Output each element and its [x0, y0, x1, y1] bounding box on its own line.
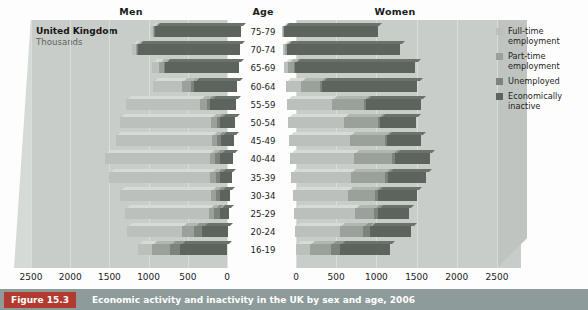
bar-segment-part_time: [209, 208, 214, 219]
axis-tick-women-1500: 1500: [397, 272, 437, 282]
age-label: 20-24: [240, 227, 286, 237]
age-label: 60-64: [240, 82, 286, 92]
bar-segment-inactive: [378, 208, 409, 219]
bar-segment-inactive: [366, 99, 421, 110]
bar-segment-part_time: [182, 81, 191, 92]
legend-swatch-icon: [496, 53, 503, 60]
legend-swatch-icon: [496, 28, 503, 35]
bar-segment-part_time: [200, 99, 207, 110]
figure-caption-text: Economic activity and inactivity in the …: [92, 295, 415, 305]
bar-segment-inactive: [165, 62, 239, 73]
bar-segment-full_time: [288, 117, 344, 128]
bar-segment-unemployed: [215, 153, 220, 164]
legend-label: Economically inactive: [508, 91, 584, 111]
bar-segment-unemployed: [217, 135, 221, 146]
bar-segment-part_time: [210, 153, 215, 164]
legend-label: Part-time employment: [508, 51, 584, 71]
axis-tick-men-2500: 2500: [11, 272, 51, 282]
axis-tick-women-1000: 1000: [356, 272, 396, 282]
units-label: Thousands: [36, 37, 118, 48]
age-label: 45-49: [240, 136, 286, 146]
country-label: United Kingdom: [36, 26, 118, 37]
bar-segment-part_time: [351, 172, 385, 183]
age-label: 55-59: [240, 100, 286, 110]
bar-segment-part_time: [153, 26, 154, 37]
bar-segment-unemployed: [164, 62, 165, 73]
bar-segment-inactive: [220, 208, 229, 219]
bar-segment-inactive: [221, 135, 234, 146]
age-label: 30-34: [240, 191, 286, 201]
bar-segment-full_time: [293, 190, 348, 201]
legend-label: Full-time employment: [508, 26, 584, 46]
bar-segment-unemployed: [216, 172, 221, 183]
axis-tick-men-1000: 1000: [129, 272, 169, 282]
country-units-label: United Kingdom Thousands: [36, 26, 118, 48]
bar-segment-part_time: [210, 172, 215, 183]
bar-segment-inactive: [388, 172, 427, 183]
gridline-men-1500: [109, 20, 110, 268]
bar-segment-full_time: [290, 153, 354, 164]
axis-tick-women-0: 0: [276, 272, 316, 282]
bar-segment-part_time: [159, 62, 164, 73]
bar-segment-part_time: [332, 99, 364, 110]
column-header-women: Women: [350, 6, 440, 17]
legend-label: Unemployed: [508, 76, 560, 86]
bar-segment-full_time: [287, 99, 332, 110]
bar-segment-unemployed: [191, 81, 193, 92]
bar-segment-part_time: [350, 135, 385, 146]
age-label: 35-39: [240, 173, 286, 183]
bar-segment-part_time: [355, 208, 374, 219]
bar-segment-full_time: [296, 244, 310, 255]
bar-segment-full_time: [151, 26, 153, 37]
bar-segment-part_time: [182, 226, 194, 237]
axis-tick-women-2000: 2000: [437, 272, 477, 282]
bar-segment-full_time: [120, 117, 211, 128]
bar-segment-unemployed: [217, 117, 221, 128]
bar-segment-inactive: [220, 117, 235, 128]
axis-tick-women-2500: 2500: [477, 272, 517, 282]
bar-segment-part_time: [354, 153, 392, 164]
bar-segment-inactive: [380, 117, 416, 128]
bar-segment-full_time: [105, 153, 209, 164]
legend-swatch-icon: [496, 93, 503, 100]
bar-segment-full_time: [116, 135, 212, 146]
age-label: 65-69: [240, 63, 286, 73]
column-header-age: Age: [240, 6, 286, 17]
bar-segment-part_time: [211, 117, 217, 128]
bar-segment-full_time: [127, 226, 182, 237]
bar-segment-inactive: [194, 81, 238, 92]
age-label: 70-74: [240, 45, 286, 55]
axis-tick-men-2000: 2000: [50, 272, 90, 282]
bar-segment-part_time: [301, 81, 320, 92]
bar-segment-full_time: [132, 44, 135, 55]
bar-segment-inactive: [284, 26, 377, 37]
legend: Full-time employmentPart-time employment…: [496, 26, 584, 116]
bar-segment-inactive: [220, 190, 230, 201]
age-label: 16-19: [240, 245, 286, 255]
age-label: 50-54: [240, 118, 286, 128]
figure-population-pyramid: Men Age Women United Kingdom Thousands 7…: [0, 0, 588, 310]
bar-segment-full_time: [294, 208, 355, 219]
bar-segment-unemployed: [137, 44, 138, 55]
bar-segment-full_time: [289, 135, 350, 146]
bar-segment-full_time: [109, 172, 211, 183]
bar-segment-inactive: [387, 135, 421, 146]
bar-segment-part_time: [212, 135, 217, 146]
bar-segment-inactive: [287, 44, 400, 55]
bar-segment-full_time: [286, 81, 301, 92]
axis-tick-women-500: 500: [316, 272, 356, 282]
gridline-men-2500: [31, 20, 32, 268]
bar-segment-part_time: [136, 44, 138, 55]
legend-item-full_time: Full-time employment: [496, 26, 584, 46]
bar-segment-inactive: [378, 190, 417, 201]
bar-segment-full_time: [152, 62, 159, 73]
axis-tick-men-0: 0: [207, 272, 247, 282]
bar-segment-part_time: [340, 226, 363, 237]
bar-segment-unemployed: [331, 244, 340, 255]
bar-segment-full_time: [291, 172, 350, 183]
bar-segment-inactive: [155, 26, 241, 37]
legend-swatch-icon: [496, 78, 503, 85]
bar-segment-full_time: [138, 244, 152, 255]
age-label: 40-44: [240, 154, 286, 164]
bar-segment-inactive: [220, 172, 231, 183]
